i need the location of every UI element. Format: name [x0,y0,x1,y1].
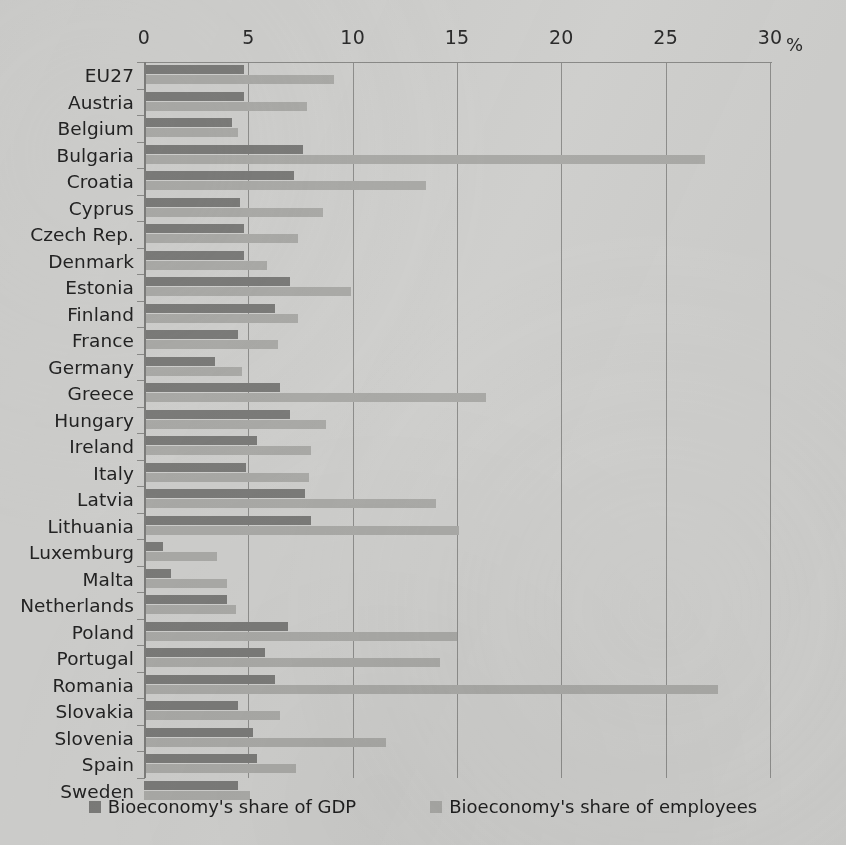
x-axis-tick-0: 0 [138,26,150,48]
bar-employees[interactable] [144,764,296,773]
legend-item-emp[interactable]: Bioeconomy's share of employees [430,796,757,817]
bar-gdp[interactable] [144,781,238,790]
bar-gdp[interactable] [144,330,238,339]
bar-gdp[interactable] [144,198,240,207]
bar-employees[interactable] [144,208,323,217]
bar-employees[interactable] [144,446,311,455]
bar-gdp[interactable] [144,701,238,710]
axis-top-line [144,62,772,63]
bar-employees[interactable] [144,605,236,614]
bar-gdp[interactable] [144,224,244,233]
bar-employees[interactable] [144,711,280,720]
chart-row: Portugal [0,645,846,672]
bar-gdp[interactable] [144,145,303,154]
bar-employees[interactable] [144,155,705,164]
bar-gdp[interactable] [144,410,290,419]
chart-row: Slovenia [0,725,846,752]
bar-employees[interactable] [144,579,227,588]
category-label-denmark: Denmark [0,250,134,271]
bar-rows: EU27AustriaBelgiumBulgariaCroatiaCyprusC… [0,62,846,804]
bar-gdp[interactable] [144,516,311,525]
category-label-belgium: Belgium [0,118,134,139]
bar-gdp[interactable] [144,304,275,313]
chart-row: Netherlands [0,592,846,619]
bar-gdp[interactable] [144,622,288,631]
category-label-romania: Romania [0,674,134,695]
category-label-latvia: Latvia [0,489,134,510]
chart-row: Slovakia [0,698,846,725]
legend-item-gdp[interactable]: Bioeconomy's share of GDP [89,796,356,817]
bar-gdp[interactable] [144,542,163,551]
category-label-hungary: Hungary [0,409,134,430]
legend-swatch-icon [89,801,101,813]
category-label-ireland: Ireland [0,436,134,457]
chart-row: Greece [0,380,846,407]
bar-gdp[interactable] [144,489,305,498]
category-label-netherlands: Netherlands [0,595,134,616]
bar-employees[interactable] [144,287,351,296]
bar-gdp[interactable] [144,171,294,180]
bar-employees[interactable] [144,261,267,270]
category-label-czech-rep: Czech Rep. [0,224,134,245]
bar-gdp[interactable] [144,357,215,366]
bar-employees[interactable] [144,314,298,323]
category-label-austria: Austria [0,91,134,112]
chart-row: Lithuania [0,513,846,540]
bar-gdp[interactable] [144,595,227,604]
bar-gdp[interactable] [144,383,280,392]
bar-gdp[interactable] [144,728,253,737]
category-label-portugal: Portugal [0,648,134,669]
chart-row: Croatia [0,168,846,195]
bar-employees[interactable] [144,420,326,429]
chart-row: Denmark [0,248,846,275]
chart-row: Poland [0,619,846,646]
bar-employees[interactable] [144,75,334,84]
x-axis-tick-30: 30 [758,26,783,48]
bar-gdp[interactable] [144,251,244,260]
chart-row: Italy [0,460,846,487]
x-axis-tick-20: 20 [549,26,574,48]
bar-employees[interactable] [144,473,309,482]
bar-employees[interactable] [144,181,426,190]
category-label-germany: Germany [0,356,134,377]
bar-gdp[interactable] [144,648,265,657]
bar-employees[interactable] [144,552,217,561]
chart-row: EU27 [0,62,846,89]
chart-row: Bulgaria [0,142,846,169]
chart-row: Austria [0,89,846,116]
bar-gdp[interactable] [144,675,275,684]
bar-gdp[interactable] [144,92,244,101]
bar-employees[interactable] [144,393,486,402]
bar-gdp[interactable] [144,65,244,74]
bar-employees[interactable] [144,526,459,535]
chart-row: Ireland [0,433,846,460]
category-label-poland: Poland [0,621,134,642]
legend-swatch-icon [430,801,442,813]
bar-gdp[interactable] [144,277,290,286]
chart-row: Spain [0,751,846,778]
bar-employees[interactable] [144,340,278,349]
bar-gdp[interactable] [144,463,246,472]
bar-employees[interactable] [144,102,307,111]
category-label-croatia: Croatia [0,171,134,192]
bar-employees[interactable] [144,128,238,137]
category-label-malta: Malta [0,568,134,589]
bar-gdp[interactable] [144,569,171,578]
category-label-italy: Italy [0,462,134,483]
bar-gdp[interactable] [144,754,257,763]
chart-row: Czech Rep. [0,221,846,248]
x-axis-tick-5: 5 [242,26,254,48]
category-label-luxemburg: Luxemburg [0,542,134,563]
bar-gdp[interactable] [144,436,257,445]
bar-gdp[interactable] [144,118,232,127]
chart-row: Hungary [0,407,846,434]
y-axis-line [144,62,146,778]
category-label-cyprus: Cyprus [0,197,134,218]
bar-employees[interactable] [144,499,436,508]
bar-employees[interactable] [144,632,457,641]
bar-employees[interactable] [144,367,242,376]
bar-employees[interactable] [144,738,386,747]
bar-employees[interactable] [144,685,718,694]
bar-employees[interactable] [144,234,298,243]
bar-employees[interactable] [144,658,440,667]
